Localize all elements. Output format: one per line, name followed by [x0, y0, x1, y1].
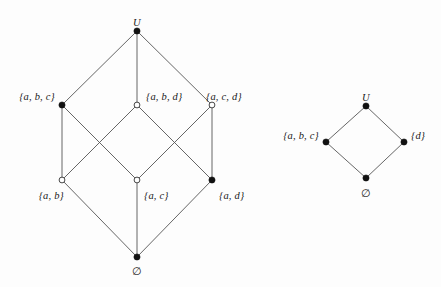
lattice-node-abd[interactable]: [134, 102, 140, 108]
lattice-node-ad[interactable]: [209, 177, 215, 183]
lattice-node-label-abd: {a, b, d}: [146, 92, 182, 103]
diagram-canvas: U{a, b, c}{a, b, d}{a, c, d}{a, b}{a, c}…: [0, 0, 441, 287]
lattice-node-rempty[interactable]: [363, 175, 369, 181]
lattice-node-label-ad: {a, d}: [219, 191, 244, 202]
right-lattice-edges: [326, 106, 404, 178]
lattice-edge: [62, 180, 137, 257]
lattice-node-label-abc: {a, b, c}: [19, 92, 55, 103]
lattice-node-acd[interactable]: [209, 102, 215, 108]
lattice-node-label-rU: U: [362, 93, 370, 104]
lattice-edge: [326, 106, 366, 142]
lattice-node-ac[interactable]: [134, 177, 140, 183]
lattice-node-label-U: U: [133, 18, 141, 29]
left-lattice-edges: [62, 31, 212, 257]
lattice-node-rU[interactable]: [363, 103, 369, 109]
lattice-edge: [326, 142, 366, 178]
lattice-edge: [366, 106, 404, 142]
lattice-node-abc[interactable]: [59, 102, 65, 108]
lattice-node-empty[interactable]: [134, 254, 140, 260]
lattice-node-label-empty: ∅: [132, 266, 142, 277]
lattice-edge: [62, 31, 137, 105]
lattice-node-label-rabc: {a, b, c}: [283, 131, 319, 142]
lattice-edge: [366, 142, 404, 178]
lattice-node-label-ab: {a, b}: [39, 191, 64, 202]
lattice-node-U[interactable]: [134, 28, 140, 34]
lattice-node-rd[interactable]: [401, 139, 407, 145]
lattice-edges-layer: [0, 0, 441, 287]
lattice-node-ab[interactable]: [59, 177, 65, 183]
lattice-node-rabc[interactable]: [323, 139, 329, 145]
lattice-node-label-acd: {a, c, d}: [206, 92, 242, 103]
right-lattice-nodes: [323, 103, 407, 181]
lattice-node-label-ac: {a, c}: [144, 191, 169, 202]
lattice-node-label-rd: {d}: [411, 131, 425, 142]
lattice-node-label-rempty: ∅: [361, 188, 371, 199]
